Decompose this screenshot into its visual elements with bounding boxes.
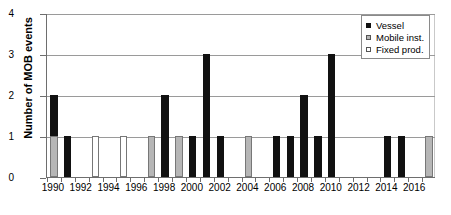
bar-1997[interactable] <box>148 136 155 177</box>
bar-2014[interactable] <box>384 136 391 177</box>
y-tick-label-1: 1 <box>0 131 14 142</box>
legend-item-mobile-inst[interactable]: Mobile inst. <box>366 31 424 43</box>
legend-swatch-fixed-prod-icon <box>366 47 371 52</box>
bar-segment-mobile-inst-1990 <box>50 136 57 177</box>
legend-label-fixed-prod: Fixed prod. <box>376 44 424 55</box>
legend-item-vessel[interactable]: Vessel <box>366 19 424 31</box>
bar-1990[interactable] <box>50 95 57 177</box>
bar-segment-mobile-inst-1999 <box>175 136 182 177</box>
bar-1995[interactable] <box>120 136 127 177</box>
bar-2008[interactable] <box>300 95 307 177</box>
bar-segment-vessel-2008 <box>300 95 307 177</box>
legend: VesselMobile inst.Fixed prod. <box>361 15 430 59</box>
bar-segment-vessel-2006 <box>273 136 280 177</box>
bar-1998[interactable] <box>161 95 168 177</box>
bar-segment-fixed-prod-1995 <box>120 136 127 177</box>
bar-2004[interactable] <box>245 136 252 177</box>
bar-2015[interactable] <box>398 136 405 177</box>
y-tick-mark-0 <box>40 178 46 179</box>
bar-segment-vessel-2000 <box>189 136 196 177</box>
bar-segment-mobile-inst-1997 <box>148 136 155 177</box>
y-tick-label-0: 0 <box>0 172 14 183</box>
gridline-y-1 <box>47 137 435 138</box>
bar-segment-fixed-prod-1993 <box>92 136 99 177</box>
bar-2006[interactable] <box>273 136 280 177</box>
y-tick-label-3: 3 <box>0 49 14 60</box>
bar-segment-vessel-2015 <box>398 136 405 177</box>
bar-1999[interactable] <box>175 136 182 177</box>
legend-swatch-mobile-inst-icon <box>366 35 371 40</box>
bar-2017[interactable] <box>425 136 432 177</box>
bar-2001[interactable] <box>203 54 210 177</box>
y-axis-title: Number of MOB events <box>22 0 34 158</box>
legend-label-vessel: Vessel <box>376 20 404 31</box>
bar-segment-vessel-2014 <box>384 136 391 177</box>
bar-1991[interactable] <box>64 136 71 177</box>
bar-segment-vessel-1998 <box>161 95 168 177</box>
legend-item-fixed-prod[interactable]: Fixed prod. <box>366 43 424 55</box>
y-tick-label-4: 4 <box>0 8 14 19</box>
bar-segment-vessel-2007 <box>287 136 294 177</box>
bar-segment-vessel-1990 <box>50 95 57 136</box>
bar-segment-vessel-2001 <box>203 54 210 177</box>
bar-segment-vessel-1991 <box>64 136 71 177</box>
bar-segment-vessel-2002 <box>217 136 224 177</box>
x-tick-label-2016: 2016 <box>394 182 434 193</box>
bar-2000[interactable] <box>189 136 196 177</box>
bar-segment-vessel-2009 <box>314 136 321 177</box>
legend-label-mobile-inst: Mobile inst. <box>376 32 424 43</box>
y-tick-label-2: 2 <box>0 90 14 101</box>
bar-segment-mobile-inst-2004 <box>245 136 252 177</box>
bar-1993[interactable] <box>92 136 99 177</box>
bar-2002[interactable] <box>217 136 224 177</box>
gridline-y-2 <box>47 96 435 97</box>
bar-2010[interactable] <box>328 54 335 177</box>
bar-segment-vessel-2010 <box>328 54 335 177</box>
bar-segment-mobile-inst-2017 <box>425 136 432 177</box>
bar-2009[interactable] <box>314 136 321 177</box>
mob-events-bar-chart: Number of MOB events 01234 1990199219941… <box>0 0 451 215</box>
legend-swatch-vessel-icon <box>366 23 371 28</box>
bar-2007[interactable] <box>287 136 294 177</box>
